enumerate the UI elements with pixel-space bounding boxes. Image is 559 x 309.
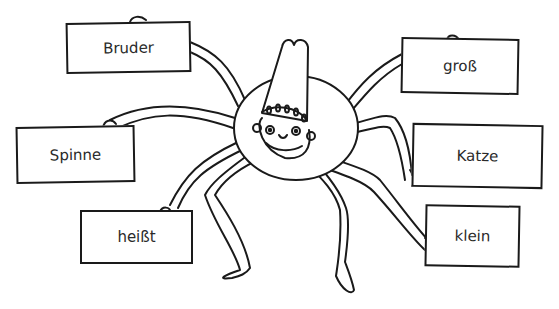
word-card-label: heißt — [117, 228, 155, 246]
word-card-bruder: Bruder — [66, 21, 192, 74]
word-card-label: klein — [454, 227, 490, 246]
word-card-label: groß — [443, 57, 477, 76]
word-card-klein: klein — [424, 204, 520, 268]
spider-leg-upper-right — [345, 54, 402, 115]
word-card-label: Bruder — [103, 38, 154, 57]
word-card-katze: Katze — [411, 123, 543, 189]
word-card-spinne: Spinne — [16, 125, 136, 184]
spider-leg-left-foot — [205, 150, 262, 278]
word-card-label: Spinne — [50, 145, 102, 164]
word-card-heisst: heißt — [80, 210, 193, 264]
word-card-label: Katze — [456, 147, 498, 166]
word-card-gross: groß — [401, 37, 520, 95]
spider-leg-upper-left — [190, 42, 245, 106]
